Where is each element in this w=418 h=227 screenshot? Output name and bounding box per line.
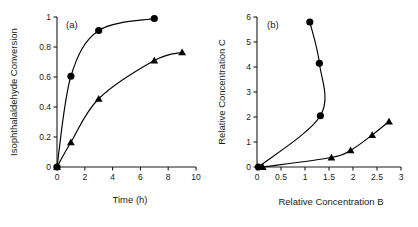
panel-b-yaxis-tick-label: 0 [246, 162, 251, 172]
panel-a-xaxis-tick-label: 10 [191, 172, 201, 182]
panel-b-xaxis-tick-label: 2.5 [371, 172, 383, 182]
panel-b-ytick-group: 0123456 [246, 12, 257, 172]
data-point-circle [151, 15, 158, 22]
data-point-circle [95, 27, 102, 34]
panel-b-plot-area: 0123456 00.511.522.53 [246, 12, 403, 182]
panel-b-yaxis-tick-label: 3 [246, 87, 251, 97]
panel-a-svg: Isophthalaldehyde Conversion 00.20.40.60… [0, 0, 209, 227]
panel-a-triangle-curve [57, 52, 182, 167]
data-point-triangle [385, 118, 393, 125]
panel-a-ytick-group: 00.20.40.60.81 [39, 12, 57, 172]
panel-b-xaxis-tick-label: 3 [399, 172, 404, 182]
panel-b-label: (b) [267, 19, 279, 30]
panel-a-yaxis-tick-label: 0 [46, 162, 51, 172]
panel-a-xaxis-tick-label: 6 [138, 172, 143, 182]
panel-b-yaxis-title-group: Relative Concentration C [216, 39, 227, 145]
panel-b-yaxis-tick-label: 5 [246, 37, 251, 47]
panel-a-yaxis-tick-label: 0.8 [39, 42, 51, 52]
panel-a-plot-area: 00.20.40.60.81 0246810 [39, 12, 201, 182]
panel-a-yaxis-tick-label: 0.6 [39, 72, 51, 82]
panel-b-xtick-group: 00.511.522.53 [255, 167, 404, 182]
panel-a-xaxis-tick-label: 4 [110, 172, 115, 182]
panel-a-yaxis-title: Isophthalaldehyde Conversion [8, 28, 19, 156]
data-point-circle [316, 60, 323, 67]
chart-panel-a: Isophthalaldehyde Conversion 00.20.40.60… [0, 0, 209, 227]
panel-a-yaxis-tick-label: 0.4 [39, 102, 51, 112]
panel-a-yaxis-tick-label: 0.2 [39, 132, 51, 142]
panel-b-circle-markers [255, 18, 324, 170]
data-point-triangle [67, 139, 75, 146]
panel-a-xaxis-tick-label: 2 [82, 172, 87, 182]
data-point-circle [317, 112, 324, 119]
panel-a-yaxis-tick-label: 1 [46, 12, 51, 22]
panel-a-label: (a) [66, 19, 78, 30]
panel-b-xaxis-title: Relative Concentration B [278, 196, 383, 207]
panel-b-triangle-markers [259, 118, 393, 170]
panel-a-xaxis-title: Time (h) [112, 194, 147, 205]
chart-panel-b: Relative Concentration C 0123456 00.511.… [209, 0, 418, 227]
panel-b-xaxis-tick-label: 0 [255, 172, 260, 182]
data-point-triangle [150, 57, 158, 64]
panel-b-circle-curve [258, 22, 325, 167]
panel-b-triangle-curve [263, 122, 389, 168]
panel-b-yaxis-title: Relative Concentration C [216, 39, 227, 145]
figure-container: Isophthalaldehyde Conversion 00.20.40.60… [0, 0, 418, 227]
panel-a-yaxis-title-group: Isophthalaldehyde Conversion [8, 28, 19, 156]
panel-a-xtick-group: 0246810 [55, 167, 201, 182]
panel-b-svg: Relative Concentration C 0123456 00.511.… [209, 0, 418, 227]
panel-b-xaxis-tick-label: 2 [351, 172, 356, 182]
panel-b-yaxis-tick-label: 2 [246, 112, 251, 122]
panel-a-xaxis-tick-label: 8 [166, 172, 171, 182]
data-point-circle [67, 73, 74, 80]
panel-b-yaxis-tick-label: 1 [246, 137, 251, 147]
data-point-triangle [347, 147, 355, 154]
panel-b-xaxis-tick-label: 0.5 [275, 172, 287, 182]
panel-b-yaxis-tick-label: 6 [246, 12, 251, 22]
panel-b-xaxis-tick-label: 1.5 [323, 172, 335, 182]
data-point-circle [306, 18, 313, 25]
panel-b-yaxis-tick-label: 4 [246, 62, 251, 72]
data-point-triangle [178, 49, 186, 56]
panel-a-xaxis-tick-label: 0 [55, 172, 60, 182]
panel-b-xaxis-tick-label: 1 [303, 172, 308, 182]
panel-a-triangle-markers [53, 49, 186, 170]
